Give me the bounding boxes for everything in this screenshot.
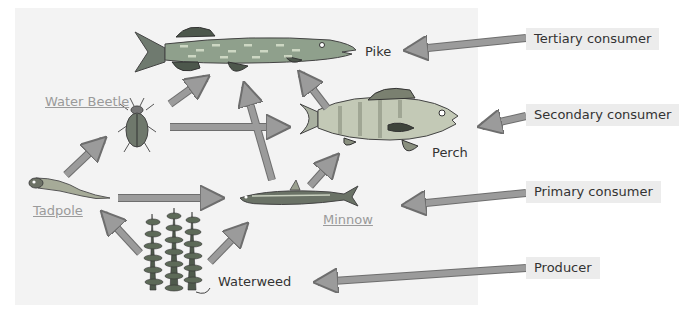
tag-secondary-consumer: Secondary consumer: [526, 104, 679, 126]
tadpole-illustration: [29, 178, 110, 199]
tag-primary-consumer: Primary consumer: [526, 181, 661, 203]
label-waterweed: Waterweed: [218, 274, 291, 290]
tag-tertiary-consumer: Tertiary consumer: [526, 28, 659, 50]
label-tadpole[interactable]: Tadpole: [33, 203, 83, 219]
label-perch: Perch: [432, 145, 468, 161]
pike-illustration: [135, 27, 356, 72]
label-pike: Pike: [365, 44, 391, 60]
label-minnow[interactable]: Minnow: [323, 212, 373, 228]
waterweed-illustration: [144, 208, 210, 293]
trophic-level-arrows: [318, 38, 526, 282]
tag-producer: Producer: [526, 257, 600, 279]
label-water-beetle[interactable]: Water Beetle: [45, 94, 129, 110]
minnow-illustration: [240, 180, 358, 206]
